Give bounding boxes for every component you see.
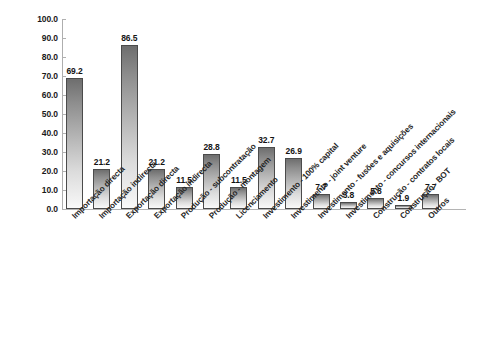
- y-axis-tick: [62, 19, 66, 20]
- y-axis-tick-label: 60.0: [10, 91, 58, 100]
- y-axis-tick: [62, 38, 66, 39]
- y-axis-tick: [62, 209, 66, 210]
- y-axis-tick-label: 20.0: [10, 167, 58, 176]
- bar: [66, 78, 83, 209]
- y-axis-tick-label: 100.0: [10, 15, 58, 24]
- y-axis-tick: [62, 57, 66, 58]
- y-axis-tick-label: 50.0: [10, 110, 58, 119]
- bar-chart: 100.090.080.070.060.050.040.030.020.010.…: [0, 0, 479, 355]
- y-axis-tick-label: 0.0: [10, 205, 58, 214]
- bar-value-label: 86.5: [109, 34, 149, 43]
- bar-value-label: 26.9: [274, 147, 314, 156]
- y-axis-tick-label: 40.0: [10, 129, 58, 138]
- y-axis-tick-label: 90.0: [10, 34, 58, 43]
- bar-value-label: 21.2: [82, 158, 122, 167]
- bar-value-label: 69.2: [55, 67, 95, 76]
- bar-value-label: 28.8: [192, 143, 232, 152]
- y-axis-tick-label: 10.0: [10, 186, 58, 195]
- y-axis-tick-label: 80.0: [10, 53, 58, 62]
- y-axis-tick-label: 70.0: [10, 72, 58, 81]
- y-axis-tick-label: 30.0: [10, 148, 58, 157]
